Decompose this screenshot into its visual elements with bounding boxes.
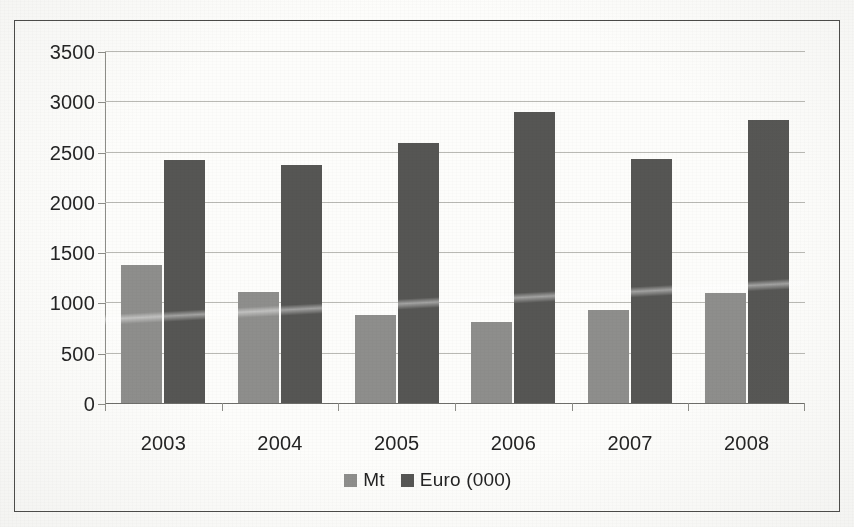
bar-euro-2003: [164, 160, 205, 403]
category-separator: [804, 403, 805, 411]
legend-item-mt: Mt: [344, 469, 385, 491]
y-axis-label-1000: 1000: [50, 292, 95, 315]
y-tick-3500: [98, 52, 105, 53]
y-axis-label-1500: 1500: [50, 242, 95, 265]
legend-item-euro: Euro (000): [401, 469, 512, 491]
bar-mt-2007: [588, 310, 629, 404]
y-axis-label-3000: 3000: [50, 91, 95, 114]
plot-area: 3500 3000 2500 2000 1500 1000: [105, 51, 805, 403]
bar-euro-2005: [398, 143, 439, 404]
legend-label-mt: Mt: [363, 469, 385, 491]
bar-group-2007: [572, 51, 689, 403]
legend-label-euro: Euro (000): [420, 469, 512, 491]
bar-groups: [105, 51, 805, 403]
y-tick-1000: [98, 303, 105, 304]
bar-mt-2003: [121, 265, 162, 403]
bar-group-2006: [455, 51, 572, 403]
chart-frame: 3500 3000 2500 2000 1500 1000: [14, 20, 840, 512]
bar-group-2005: [338, 51, 455, 403]
x-axis-label-2008: 2008: [688, 423, 805, 463]
x-axis-labels: 2003 2004 2005 2006 2007 2008: [105, 423, 805, 463]
y-tick-1500: [98, 253, 105, 254]
y-tick-500: [98, 354, 105, 355]
x-axis-label-2004: 2004: [222, 423, 339, 463]
category-separator: [688, 403, 689, 411]
y-axis-label-2000: 2000: [50, 191, 95, 214]
bar-euro-2007: [631, 159, 672, 403]
x-axis-label-2005: 2005: [338, 423, 455, 463]
y-tick-2000: [98, 203, 105, 204]
x-axis-label-2003: 2003: [105, 423, 222, 463]
bar-euro-2006: [514, 112, 555, 403]
bar-euro-2004: [281, 165, 322, 403]
y-axis-label-500: 500: [61, 342, 95, 365]
bar-euro-2008: [748, 120, 789, 403]
y-tick-0: [98, 404, 105, 405]
bar-mt-2006: [471, 322, 512, 404]
scanned-chart-page: 3500 3000 2500 2000 1500 1000: [0, 0, 854, 527]
legend-swatch-icon-mt: [344, 474, 357, 487]
x-axis-label-2007: 2007: [572, 423, 689, 463]
category-separator: [105, 403, 106, 411]
bar-mt-2008: [705, 293, 746, 403]
bar-mt-2004: [238, 292, 279, 403]
bar-group-2008: [688, 51, 805, 403]
x-axis-label-2006: 2006: [455, 423, 572, 463]
y-axis-label-0: 0: [84, 393, 95, 416]
y-tick-2500: [98, 153, 105, 154]
y-axis-label-3500: 3500: [50, 41, 95, 64]
category-separator: [338, 403, 339, 411]
chart-legend: Mt Euro (000): [15, 469, 841, 491]
y-tick-3000: [98, 102, 105, 103]
y-axis-label-2500: 2500: [50, 141, 95, 164]
legend-swatch-icon-euro: [401, 474, 414, 487]
bar-group-2004: [222, 51, 339, 403]
category-separator: [455, 403, 456, 411]
category-separator: [572, 403, 573, 411]
bar-mt-2005: [355, 315, 396, 404]
bar-group-2003: [105, 51, 222, 403]
category-separator: [222, 403, 223, 411]
